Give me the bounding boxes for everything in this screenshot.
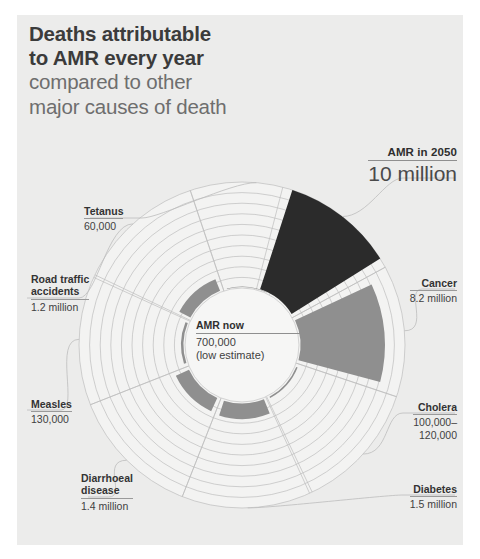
label-tetanus-rule	[84, 218, 123, 219]
amr-now-note: (low estimate)	[196, 349, 306, 363]
amr-2050-rule	[368, 160, 457, 161]
label-diabetes-name: Diabetes	[410, 483, 457, 495]
label-diabetes: Diabetes 1.5 million	[410, 483, 457, 511]
amr-2050-value: 10 million	[368, 162, 457, 186]
label-cholera-name: Cholera	[413, 401, 457, 413]
label-cancer-name: Cancer	[410, 277, 457, 289]
label-road-traffic-name-1: Road traffic	[31, 273, 89, 285]
amr-2050-label: AMR in 2050	[368, 146, 457, 158]
label-road-traffic: Road traffic accidents 1.2 million	[31, 273, 89, 313]
label-tetanus-value: 60,000	[84, 220, 123, 233]
label-tetanus: Tetanus 60,000	[84, 205, 123, 233]
label-tetanus-name: Tetanus	[84, 205, 123, 217]
label-cholera-value-2: 120,000	[413, 429, 457, 442]
amr-now-value: 700,000	[196, 336, 306, 350]
amr-now-callout: AMR now 700,000 (low estimate)	[196, 319, 306, 363]
label-diabetes-rule	[410, 496, 457, 497]
label-road-traffic-name-2: accidents	[31, 285, 89, 297]
label-diarrhoeal: Diarrhoeal disease 1.4 million	[81, 472, 133, 512]
label-diarrhoeal-value: 1.4 million	[81, 500, 133, 513]
amr-now-label: AMR now	[196, 319, 306, 331]
label-measles: Measles 130,000	[31, 398, 72, 426]
label-cholera-value-1: 100,000–	[413, 416, 457, 429]
label-diabetes-value: 1.5 million	[410, 498, 457, 511]
label-road-traffic-value: 1.2 million	[31, 301, 89, 314]
label-measles-name: Measles	[31, 398, 72, 410]
label-cholera: Cholera 100,000– 120,000	[413, 401, 457, 442]
label-diarrhoeal-rule	[81, 498, 133, 499]
label-road-traffic-rule	[31, 299, 89, 300]
label-diarrhoeal-name-1: Diarrhoeal	[81, 472, 133, 484]
label-measles-rule	[31, 411, 72, 412]
label-measles-value: 130,000	[31, 413, 72, 426]
label-cholera-rule	[413, 414, 457, 415]
amr-2050-callout: AMR in 2050 10 million	[368, 146, 457, 186]
amr-now-rule	[196, 333, 306, 334]
label-diarrhoeal-name-2: disease	[81, 484, 133, 496]
label-cancer: Cancer 8.2 million	[410, 277, 457, 305]
label-cancer-value: 8.2 million	[410, 292, 457, 305]
label-cancer-rule	[410, 290, 457, 291]
